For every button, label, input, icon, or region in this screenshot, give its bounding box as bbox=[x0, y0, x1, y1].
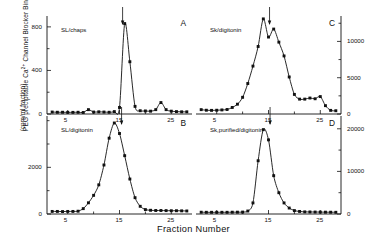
data-point-marker bbox=[56, 210, 59, 213]
data-point-marker bbox=[66, 210, 69, 213]
data-point-marker bbox=[241, 211, 244, 214]
data-point-marker bbox=[61, 210, 64, 213]
panel-title-c: Sk/digitonin bbox=[210, 26, 242, 33]
data-point-marker bbox=[288, 76, 291, 79]
data-point-marker bbox=[87, 108, 90, 111]
data-point-marker bbox=[329, 109, 332, 112]
data-point-marker bbox=[71, 111, 74, 114]
panel-b: 5152502000BSL/digitonin bbox=[47, 116, 192, 214]
y-axis-label-units: (cpm/ml fraction) bbox=[19, 48, 26, 168]
x-tick-label: 5 bbox=[64, 216, 67, 223]
data-point-marker bbox=[185, 110, 188, 113]
data-point-marker bbox=[257, 159, 260, 162]
data-point-marker bbox=[220, 108, 223, 111]
data-point-marker bbox=[303, 210, 306, 213]
data-point-marker bbox=[319, 211, 322, 214]
data-point-marker bbox=[200, 108, 203, 111]
data-point-marker bbox=[262, 17, 265, 20]
y-tick-label: 400 bbox=[32, 66, 42, 73]
data-point-marker bbox=[118, 106, 121, 109]
panel-title-b: SL/digitonin bbox=[61, 126, 93, 133]
data-point-marker bbox=[288, 207, 291, 210]
data-point-marker bbox=[108, 137, 111, 140]
y-tick-label: 0 bbox=[39, 210, 42, 217]
data-point-marker bbox=[200, 211, 203, 214]
data-point-marker bbox=[215, 109, 218, 112]
data-point-marker bbox=[66, 111, 69, 114]
data-point-marker bbox=[334, 109, 337, 112]
data-point-marker bbox=[308, 211, 311, 214]
panel-a: 515250400800ASL/chaps bbox=[47, 16, 192, 114]
y-tick-label: 5000 bbox=[347, 74, 361, 81]
reference-arrow-c bbox=[268, 7, 271, 25]
panel-title-a: SL/chaps bbox=[61, 26, 86, 33]
data-point-marker bbox=[87, 201, 90, 204]
data-point-marker bbox=[180, 209, 183, 212]
data-point-marker bbox=[149, 110, 152, 113]
data-point-marker bbox=[175, 209, 178, 212]
y-tick-label: 20000 bbox=[347, 125, 364, 132]
data-point-marker bbox=[118, 132, 121, 135]
data-point-marker bbox=[123, 22, 126, 25]
data-point-marker bbox=[61, 111, 64, 114]
data-point-marker bbox=[293, 93, 296, 96]
panel-letter-d: D bbox=[329, 118, 335, 128]
data-point-marker bbox=[220, 211, 223, 214]
panel-d: 5152501000020000DSk,purified/digitonin bbox=[196, 116, 341, 214]
data-point-marker bbox=[82, 207, 85, 210]
data-point-marker bbox=[324, 104, 327, 107]
data-curve-d bbox=[201, 129, 336, 212]
data-point-marker bbox=[170, 110, 173, 113]
data-point-marker bbox=[272, 174, 275, 177]
y-tick-label: 800 bbox=[32, 23, 42, 30]
data-point-marker bbox=[134, 105, 137, 108]
data-point-marker bbox=[82, 111, 85, 114]
data-point-marker bbox=[257, 45, 260, 48]
data-point-marker bbox=[277, 41, 280, 44]
data-point-marker bbox=[103, 164, 106, 167]
data-point-marker bbox=[144, 208, 147, 211]
data-point-marker bbox=[205, 109, 208, 112]
data-point-marker bbox=[319, 95, 322, 98]
panel-c: 515250500010000CSk/digitonin bbox=[196, 16, 341, 114]
data-point-marker bbox=[226, 108, 229, 111]
data-point-marker bbox=[308, 97, 311, 100]
data-point-marker bbox=[139, 109, 142, 112]
x-tick-label: 5 bbox=[213, 216, 216, 223]
data-point-marker bbox=[298, 98, 301, 101]
data-point-marker bbox=[303, 98, 306, 101]
data-point-marker bbox=[185, 210, 188, 213]
y-tick-label: 0 bbox=[39, 110, 42, 117]
data-point-marker bbox=[92, 111, 95, 114]
data-point-marker bbox=[252, 65, 255, 68]
data-point-marker bbox=[267, 36, 270, 39]
data-point-marker bbox=[252, 201, 255, 204]
data-point-marker bbox=[154, 209, 157, 212]
data-point-marker bbox=[283, 54, 286, 57]
data-point-marker bbox=[231, 106, 234, 109]
y-tick-label: 10000 bbox=[347, 167, 364, 174]
data-point-marker bbox=[293, 209, 296, 212]
data-point-marker bbox=[149, 209, 152, 212]
panel-title-d: Sk,purified/digitonin bbox=[210, 126, 263, 133]
y-tick-label: 0 bbox=[347, 210, 350, 217]
data-point-marker bbox=[92, 194, 95, 197]
data-point-marker bbox=[108, 111, 111, 114]
x-tick-label: 15 bbox=[116, 216, 123, 223]
data-curve-a bbox=[52, 23, 187, 115]
data-point-marker bbox=[283, 201, 286, 204]
data-point-marker bbox=[246, 210, 249, 213]
data-point-marker bbox=[128, 178, 131, 181]
x-tick-label: 25 bbox=[316, 216, 323, 223]
data-point-marker bbox=[77, 111, 80, 114]
y-tick-label: 10000 bbox=[347, 37, 364, 44]
data-point-marker bbox=[139, 205, 142, 208]
data-point-marker bbox=[231, 211, 234, 214]
y-tick-label: 2000 bbox=[28, 163, 42, 170]
y-tick-label: 0 bbox=[347, 110, 350, 117]
data-point-marker bbox=[324, 211, 327, 214]
data-point-marker bbox=[334, 211, 337, 214]
data-point-marker bbox=[210, 109, 213, 112]
data-point-marker bbox=[267, 138, 270, 141]
x-tick-label: 15 bbox=[265, 216, 272, 223]
